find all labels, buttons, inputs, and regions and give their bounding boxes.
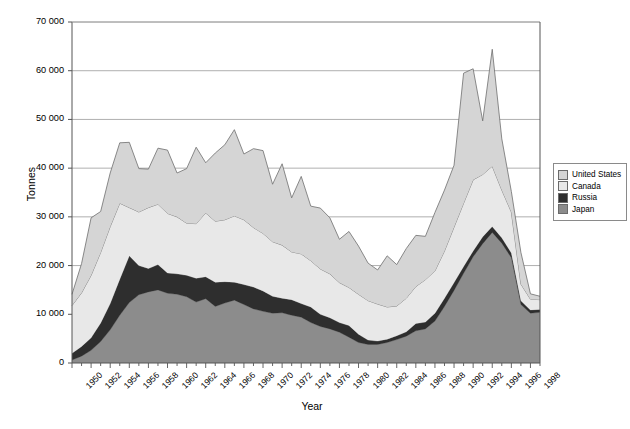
chart-legend: United States Canada Russia Japan	[553, 163, 627, 221]
legend-label-russia: Russia	[572, 193, 597, 202]
legend-item-russia: Russia	[558, 193, 621, 203]
plot-canvas	[0, 0, 630, 429]
y-tick-label: 20 000	[4, 260, 64, 270]
legend-item-united-states: United States	[558, 170, 621, 180]
legend-swatch-japan	[558, 204, 568, 214]
chart-screenshot: Tonnes Year 010 00020 00030 00040 00050 …	[0, 0, 630, 429]
legend-label-japan: Japan	[572, 205, 594, 214]
y-tick-label: 50 000	[4, 113, 64, 123]
y-tick-label: 70 000	[4, 16, 64, 26]
legend-swatch-russia	[558, 193, 568, 203]
area-chart: Tonnes Year 010 00020 00030 00040 00050 …	[0, 0, 630, 429]
y-tick-label: 0	[4, 357, 64, 367]
legend-item-japan: Japan	[558, 204, 621, 214]
x-axis-title: Year	[252, 400, 372, 412]
y-tick-label: 40 000	[4, 162, 64, 172]
y-tick-label: 10 000	[4, 308, 64, 318]
legend-label-united-states: United States	[572, 170, 621, 179]
legend-item-canada: Canada	[558, 181, 621, 191]
legend-label-canada: Canada	[572, 182, 601, 191]
y-tick-label: 30 000	[4, 211, 64, 221]
legend-swatch-united-states	[558, 170, 568, 180]
legend-swatch-canada	[558, 181, 568, 191]
y-tick-label: 60 000	[4, 65, 64, 75]
